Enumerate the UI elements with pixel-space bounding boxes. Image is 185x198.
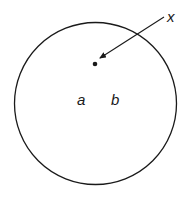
label-x: x [166,8,175,25]
circle-diagram: x a b [0,0,185,198]
center-point [93,62,98,67]
circle-outline [15,23,177,185]
label-b: b [111,91,119,108]
label-a: a [77,91,85,108]
